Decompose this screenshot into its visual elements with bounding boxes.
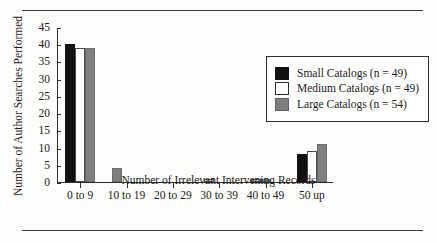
y-tick-label: 40 [39, 39, 51, 51]
y-tick-mark [57, 80, 61, 81]
legend-label: Large Catalogs (n = 54) [297, 98, 407, 111]
y-tick-mark [57, 45, 61, 46]
bar-large [112, 168, 122, 182]
legend-swatch-small [275, 67, 289, 80]
bar-group [112, 168, 122, 182]
y-tick-mark [57, 97, 61, 98]
x-tick-label: 50 up [299, 190, 325, 202]
bar-large [85, 48, 95, 182]
y-tick-label: 35 [39, 57, 51, 69]
y-axis-label: Number of Author Searches Performed [12, 15, 24, 195]
y-tick-mark [57, 28, 61, 29]
y-tick-mark [57, 149, 61, 150]
bar-medium [75, 48, 85, 182]
y-tick-label: 0 [44, 177, 50, 189]
x-tick-label: 30 to 39 [200, 190, 238, 202]
x-tick-label: 20 to 29 [154, 190, 192, 202]
legend-item: Small Catalogs (n = 49) [275, 67, 419, 80]
y-tick-label: 5 [44, 160, 50, 172]
y-tick-label: 20 [39, 108, 51, 120]
y-tick-label: 10 [39, 143, 51, 155]
legend-item: Large Catalogs (n = 54) [275, 98, 419, 111]
x-tick-label: 10 to 19 [108, 190, 146, 202]
y-tick-mark [57, 114, 61, 115]
x-tick-mark [80, 183, 81, 188]
y-tick-mark [57, 183, 61, 184]
y-axis-line [57, 28, 58, 183]
y-tick-mark [57, 166, 61, 167]
y-tick-mark [57, 131, 61, 132]
x-tick-label: 0 to 9 [67, 190, 93, 202]
bar-large [317, 144, 327, 182]
y-tick-label: 25 [39, 91, 51, 103]
bar-small [65, 44, 75, 182]
legend-swatch-large [275, 98, 289, 111]
bottom-rule [22, 230, 423, 231]
legend-item: Medium Catalogs (n = 49) [275, 82, 419, 95]
legend-label: Small Catalogs (n = 49) [297, 67, 407, 80]
top-rule [22, 10, 423, 11]
x-tick-label: 40 to 49 [247, 190, 285, 202]
y-tick-label: 15 [39, 126, 51, 138]
figure-container: 051015202530354045 0 to 910 to 1920 to 2… [0, 0, 437, 243]
legend: Small Catalogs (n = 49)Medium Catalogs (… [266, 56, 429, 122]
y-tick-label: 30 [39, 74, 51, 86]
bar-group [65, 44, 95, 182]
legend-swatch-medium [275, 82, 289, 95]
y-tick-mark [57, 62, 61, 63]
legend-label: Medium Catalogs (n = 49) [297, 82, 419, 95]
y-tick-label: 45 [39, 22, 51, 34]
x-axis-label: Number of Irrelevant Intervening Records [121, 174, 315, 186]
